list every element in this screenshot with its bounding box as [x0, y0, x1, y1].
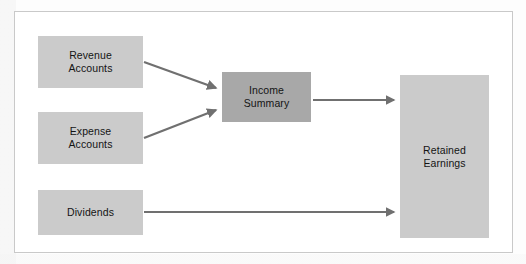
node-income-summary[interactable]: Income Summary: [222, 72, 311, 122]
closing-process-diagram: Revenue Accounts Expense Accounts Divide…: [0, 0, 526, 264]
node-expense-accounts[interactable]: Expense Accounts: [38, 112, 143, 164]
node-dividends[interactable]: Dividends: [38, 190, 143, 235]
node-expense-accounts-label: Expense Accounts: [69, 125, 113, 151]
node-dividends-label: Dividends: [67, 206, 114, 219]
node-income-summary-label: Income Summary: [244, 84, 290, 110]
node-revenue-accounts[interactable]: Revenue Accounts: [38, 36, 143, 88]
node-retained-earnings[interactable]: Retained Earnings: [400, 75, 489, 238]
node-revenue-accounts-label: Revenue Accounts: [69, 49, 113, 75]
node-retained-earnings-label: Retained Earnings: [423, 144, 466, 170]
